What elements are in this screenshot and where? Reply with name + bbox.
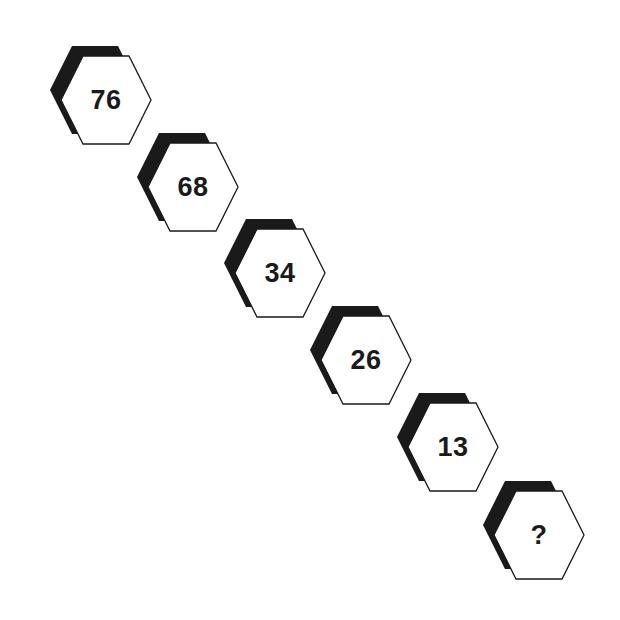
hexagon-cell-6-unknown: ? <box>480 477 590 582</box>
hexagon-number: ? <box>494 491 584 579</box>
